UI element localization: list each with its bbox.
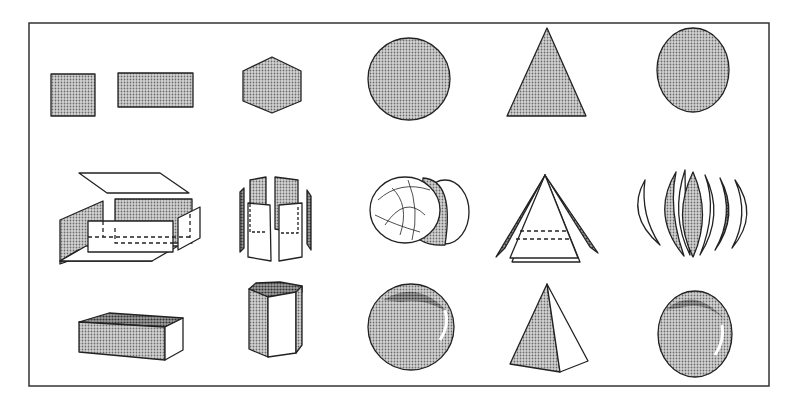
exploded-pyramid <box>496 175 598 262</box>
ellipse-shape <box>657 28 729 112</box>
pyramid-solid <box>510 284 588 372</box>
exploded-box <box>60 173 200 264</box>
exploded-ellipsoid <box>638 170 747 257</box>
exploded-hex-prism <box>240 177 311 261</box>
rectangular-prism <box>79 313 183 360</box>
ellipsoid-solid <box>658 291 732 377</box>
sphere-solid <box>368 284 454 370</box>
circle-shape <box>368 38 450 120</box>
exploded-sphere <box>370 177 469 245</box>
shapes-diagram <box>0 0 794 402</box>
hexagonal-prism <box>249 282 302 357</box>
square-shape <box>51 74 95 116</box>
rectangle-shape <box>118 73 193 107</box>
triangle-shape <box>507 28 586 116</box>
hexagon-shape <box>243 57 301 113</box>
